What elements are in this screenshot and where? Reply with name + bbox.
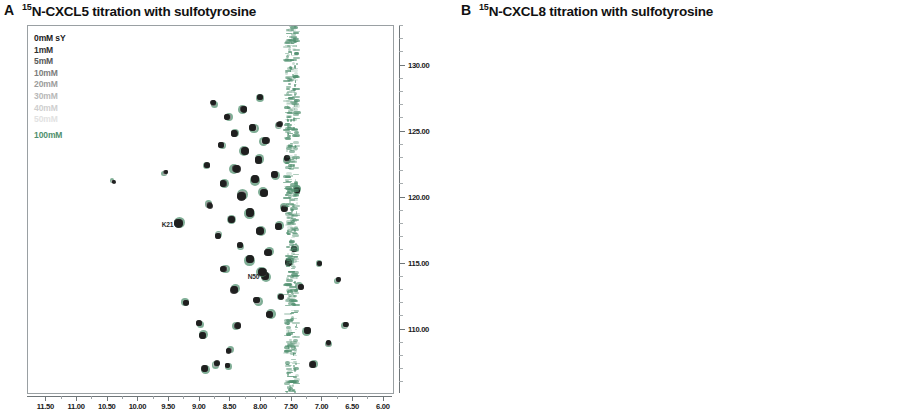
x-tick	[76, 396, 77, 401]
solvent-artifact-streak	[288, 271, 295, 272]
solvent-artifact-streak	[291, 175, 292, 177]
y-tick-minor	[399, 223, 403, 224]
solvent-artifact-streak	[294, 154, 297, 156]
nmr-peak	[226, 348, 232, 354]
solvent-artifact-streak	[296, 324, 298, 326]
solvent-artifact-streak	[291, 246, 295, 249]
solvent-artifact-streak	[283, 352, 291, 354]
solvent-artifact-streak	[287, 258, 294, 260]
y-tick-minor	[399, 78, 403, 79]
nmr-peak	[230, 286, 238, 294]
solvent-artifact-streak	[296, 45, 297, 47]
x-tick-minor	[183, 396, 184, 399]
x-tick-label: 11.50	[37, 402, 54, 411]
solvent-artifact-streak	[285, 179, 292, 180]
x-tick-minor	[245, 396, 246, 399]
x-tick-minor	[367, 396, 368, 399]
nmr-peak	[264, 249, 272, 257]
solvent-artifact-streak	[287, 54, 290, 55]
y-tick-label: 125.00	[408, 126, 429, 135]
solvent-artifact-streak	[285, 176, 292, 177]
panel-a-plot-area: K21N50	[27, 25, 394, 394]
nmr-peak	[275, 223, 282, 230]
x-tick-label: 6.50	[345, 402, 359, 411]
solvent-artifact-streak	[286, 150, 288, 152]
solvent-artifact-streak	[295, 112, 299, 115]
y-tick-minor	[399, 315, 403, 316]
legend-item: 1mM	[34, 45, 66, 57]
solvent-artifact-streak	[294, 124, 295, 125]
panel-b-title: 15N-CXCL8 titration with sulfotyrosine	[479, 2, 713, 19]
solvent-artifact-streak	[292, 48, 296, 51]
panel-b-letter: B	[461, 2, 471, 18]
x-tick-minor	[275, 396, 276, 399]
panel-a-legend: 0mM sY1mM5mM10mM20mM30mM40mM50mM100mM	[34, 33, 66, 141]
y-tick-minor	[399, 355, 403, 356]
solvent-artifact-streak	[291, 237, 295, 238]
panel-a-title-superscript: 15	[22, 2, 32, 12]
solvent-artifact-streak	[285, 45, 292, 46]
y-tick	[399, 131, 405, 132]
y-tick-minor	[399, 104, 403, 105]
solvent-artifact-streak	[286, 266, 289, 267]
nmr-peak	[262, 137, 269, 144]
solvent-artifact-streak	[286, 326, 291, 329]
x-tick-minor	[91, 396, 92, 399]
x-tick	[168, 396, 169, 401]
solvent-artifact-streak	[293, 91, 295, 93]
y-tick-minor	[399, 342, 403, 343]
nmr-peak	[246, 208, 255, 217]
y-tick-label: 110.00	[408, 324, 429, 333]
panel-a-letter: A	[4, 2, 14, 18]
x-tick-label: 6.00	[376, 402, 390, 411]
solvent-artifact-streak	[286, 102, 292, 105]
legend-item: 20mM	[34, 79, 66, 91]
solvent-artifact-streak	[292, 234, 299, 237]
solvent-artifact-streak	[291, 303, 296, 305]
nmr-peak	[298, 284, 304, 290]
solvent-artifact-streak	[290, 289, 297, 291]
solvent-artifact-streak	[287, 116, 291, 118]
solvent-artifact-streak	[292, 318, 297, 319]
solvent-artifact-streak	[285, 98, 289, 99]
solvent-artifact-streak	[293, 367, 298, 370]
solvent-artifact-streak	[293, 75, 299, 78]
y-tick-minor	[399, 289, 403, 290]
peak-label: N50	[248, 272, 260, 279]
x-tick-label: 9.00	[192, 402, 206, 411]
x-tick-label: 9.50	[161, 402, 175, 411]
legend-item: 0mM sY	[34, 33, 66, 45]
solvent-artifact-streak	[287, 376, 294, 378]
y-tick-minor	[399, 25, 403, 26]
solvent-artifact-streak	[284, 106, 290, 109]
solvent-artifact-streak	[293, 254, 300, 255]
nmr-peak	[237, 192, 246, 201]
solvent-artifact-streak	[290, 183, 298, 186]
solvent-artifact-streak	[293, 104, 300, 107]
solvent-artifact-streak	[287, 233, 291, 235]
y-tick-minor	[399, 236, 403, 237]
solvent-artifact-streak	[296, 277, 298, 279]
solvent-artifact-streak	[294, 292, 299, 294]
nmr-peak	[164, 170, 168, 174]
solvent-artifact-streak	[285, 137, 291, 139]
solvent-artifact-streak	[291, 59, 294, 61]
solvent-artifact-streak	[285, 119, 290, 120]
solvent-artifact-streak	[283, 294, 291, 296]
solvent-artifact-streak	[291, 264, 295, 266]
panel-a-title: 15N-CXCL5 titration with sulfotyrosine	[22, 2, 256, 19]
solvent-artifact-streak	[287, 212, 291, 213]
y-tick-minor	[399, 91, 403, 92]
solvent-artifact-streak	[294, 52, 299, 54]
nmr-peak	[231, 130, 238, 137]
solvent-artifact-streak	[293, 141, 299, 143]
y-tick-label: 120.00	[408, 192, 429, 201]
nmr-peak	[201, 365, 208, 372]
solvent-artifact-streak	[286, 222, 291, 224]
legend-item: 50mM	[34, 114, 66, 126]
x-tick	[352, 396, 353, 401]
x-tick-label: 7.50	[284, 402, 298, 411]
y-tick-minor	[399, 276, 403, 277]
solvent-artifact-streak	[291, 36, 296, 38]
x-tick-label: 10.00	[129, 402, 147, 411]
